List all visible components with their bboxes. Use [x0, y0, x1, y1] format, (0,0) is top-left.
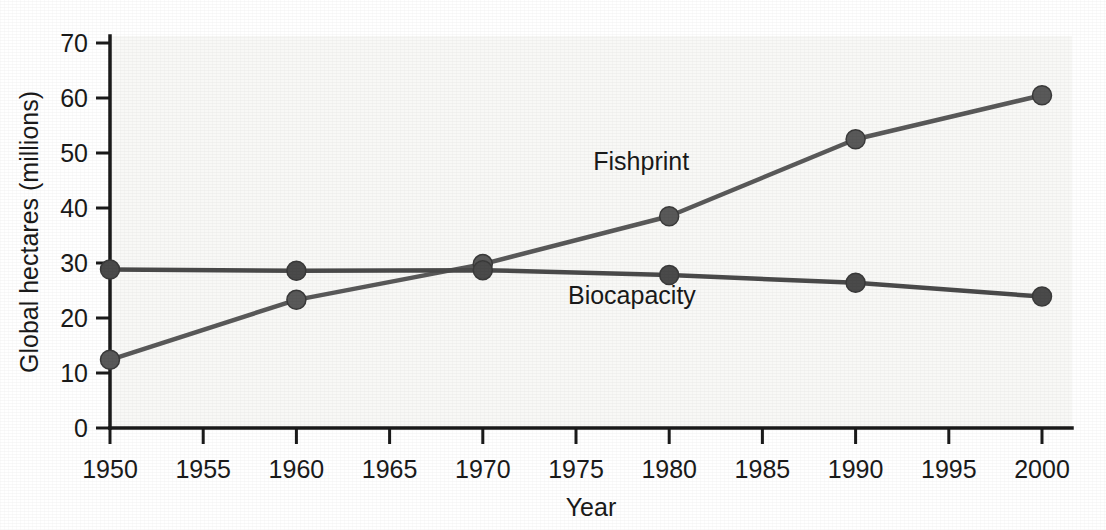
x-tick-label: 1995: [921, 455, 977, 483]
series-line-fishprint: [110, 95, 1042, 360]
chart-figure: 010203040506070 195019551960196519701975…: [0, 0, 1106, 530]
data-point-marker: [473, 261, 492, 280]
series-label-biocapacity: Biocapacity: [568, 281, 696, 309]
data-point-marker: [1033, 287, 1052, 306]
data-point-marker: [1033, 86, 1052, 105]
data-point-marker: [846, 273, 865, 292]
y-tick-label: 70: [60, 29, 88, 57]
x-tick-label: 1960: [269, 455, 325, 483]
data-point-marker: [287, 261, 306, 280]
data-series-group: [101, 86, 1052, 370]
x-tick-label: 1980: [641, 455, 697, 483]
line-chart: 010203040506070 195019551960196519701975…: [0, 0, 1106, 530]
x-tick-label: 1965: [362, 455, 418, 483]
x-tick-label: 2000: [1014, 455, 1070, 483]
data-point-marker: [101, 260, 120, 279]
x-tick-label: 1985: [735, 455, 791, 483]
x-tick-label: 1955: [175, 455, 231, 483]
y-tick-label: 20: [60, 304, 88, 332]
x-tick-label: 1975: [548, 455, 604, 483]
y-axis-title: Global hectares (millions): [15, 91, 43, 373]
x-tick-label: 1950: [82, 455, 138, 483]
y-tick-label: 50: [60, 139, 88, 167]
y-tick-label: 0: [74, 414, 88, 442]
x-axis-ticks: 1950195519601965197019751980198519901995…: [82, 428, 1070, 483]
y-axis-ticks: 010203040506070: [60, 29, 110, 442]
data-point-marker: [846, 130, 865, 149]
y-tick-label: 10: [60, 359, 88, 387]
x-tick-label: 1970: [455, 455, 511, 483]
data-point-marker: [101, 350, 120, 369]
y-tick-label: 30: [60, 249, 88, 277]
data-point-marker: [287, 290, 306, 309]
x-tick-label: 1990: [828, 455, 884, 483]
data-point-marker: [660, 207, 679, 226]
y-tick-label: 60: [60, 84, 88, 112]
series-label-fishprint: Fishprint: [593, 147, 689, 175]
x-axis-title: Year: [566, 493, 617, 521]
y-tick-label: 40: [60, 194, 88, 222]
